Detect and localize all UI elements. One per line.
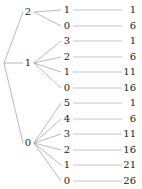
leaf-key-2-1: 0	[64, 21, 70, 31]
tree-diagram: 211061312611101605146311216121026	[0, 0, 142, 189]
leaf-value-0-0: 1	[130, 98, 136, 108]
root-edge-0	[4, 63, 23, 143]
branch-edge-1-1	[34, 63, 61, 72]
branch-edge-1-0	[34, 63, 61, 88]
branch-edges-group	[34, 10, 61, 181]
branch-node-2: 2	[25, 7, 31, 17]
leaf-value-0-1: 6	[130, 114, 136, 124]
leaf-value-1-0: 1	[130, 36, 136, 46]
branch-edge-2-0	[34, 12, 61, 26]
leaf-value-0-3: 16	[123, 145, 136, 155]
leaf-value-0-5: 26	[123, 176, 136, 186]
leaf-value-1-3: 16	[123, 83, 136, 93]
branch-edge-0-3	[34, 134, 61, 143]
leaf-key-1-2: 1	[64, 67, 70, 77]
leaf-value-0-4: 21	[123, 160, 136, 170]
leaf-key-1-3: 0	[64, 83, 70, 93]
tree-edges-canvas	[0, 0, 142, 189]
leaf-key-2-0: 1	[64, 5, 70, 15]
leaf-key-1-1: 2	[64, 52, 70, 62]
root-edge-2	[4, 12, 23, 63]
branch-edge-2-1	[34, 10, 61, 12]
leaf-key-0-2: 3	[64, 129, 70, 139]
leaf-value-1-1: 6	[130, 52, 136, 62]
leaf-value-2-0: 1	[130, 5, 136, 15]
leaf-key-0-3: 2	[64, 145, 70, 155]
branch-node-1: 1	[25, 58, 31, 68]
branch-node-0: 0	[25, 138, 31, 148]
leaf-connectors-group	[73, 10, 122, 181]
leaf-key-0-0: 5	[64, 98, 70, 108]
root-edges-group	[4, 12, 23, 143]
leaf-value-2-1: 6	[130, 21, 136, 31]
leaf-value-0-2: 11	[123, 129, 136, 139]
leaf-key-0-4: 1	[64, 160, 70, 170]
leaf-value-1-2: 11	[123, 67, 136, 77]
leaf-key-0-5: 0	[64, 176, 70, 186]
leaf-key-0-1: 4	[64, 114, 70, 124]
leaf-key-1-0: 3	[64, 36, 70, 46]
